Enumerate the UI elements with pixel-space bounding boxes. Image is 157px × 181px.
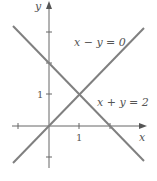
y-tick-label-1: 1	[37, 89, 43, 100]
annotation-line2: x + y = 2	[97, 96, 149, 109]
y-axis-arrow-icon	[46, 1, 52, 9]
y-axis-label: y	[34, 0, 42, 13]
coordinate-plot: y x 1 1 x − y = 0 x + y = 2	[0, 0, 157, 181]
x-tick-label-1: 1	[76, 132, 82, 143]
x-axis-arrow-icon	[139, 123, 147, 129]
annotation-line1: x − y = 0	[74, 36, 126, 49]
x-axis-label: x	[139, 131, 146, 144]
